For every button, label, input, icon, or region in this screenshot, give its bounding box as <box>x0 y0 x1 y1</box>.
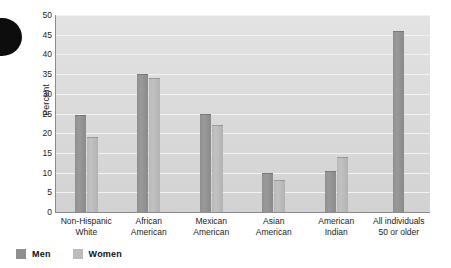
chart-legend: MenWomen <box>16 249 144 259</box>
x-tick-label-line: American <box>243 227 306 238</box>
y-tick-label: 30 <box>32 90 52 99</box>
bar-top-edge <box>262 173 273 174</box>
x-tick-label-4: AmericanIndian <box>305 216 368 238</box>
bar-women-3 <box>274 180 285 212</box>
x-tick-label-line: White <box>55 227 118 238</box>
bar-top-edge <box>87 137 98 138</box>
bar-top-edge <box>137 74 148 75</box>
x-tick-label-line: American <box>118 227 181 238</box>
bar-top-edge <box>212 125 223 126</box>
women-swatch <box>73 249 83 259</box>
x-axis-tick-labels: Non-HispanicWhiteAfricanAmericanMexicanA… <box>55 216 430 250</box>
y-tick-label: 20 <box>32 129 52 138</box>
bar-women-2 <box>212 125 223 212</box>
y-tick-label: 15 <box>32 149 52 158</box>
bar-top-edge <box>75 115 86 116</box>
x-tick-label-0: Non-HispanicWhite <box>55 216 118 238</box>
legend-item-men[interactable]: Men <box>16 249 51 259</box>
y-tick-label: 35 <box>32 70 52 79</box>
bar-women-4 <box>337 157 348 212</box>
bar-top-edge <box>393 31 404 32</box>
bar-men-4 <box>325 171 336 212</box>
x-tick-label-line: American <box>305 216 368 227</box>
x-tick-label-line: Asian <box>243 216 306 227</box>
bar-top-edge <box>325 171 336 172</box>
y-tick-label: 0 <box>32 208 52 217</box>
bar-top-edge <box>274 180 285 181</box>
legend-label: Men <box>32 249 51 259</box>
x-tick-label-line: Mexican <box>180 216 243 227</box>
x-tick-label-line: American <box>180 227 243 238</box>
bar-women-1 <box>149 78 160 212</box>
bar-men-0 <box>75 115 86 212</box>
y-tick-label: 25 <box>32 110 52 119</box>
x-tick-label-line: Non-Hispanic <box>55 216 118 227</box>
bar-women-0 <box>87 137 98 212</box>
bar-men-5 <box>393 31 404 212</box>
y-axis-tick-labels: 50454035302520151050 <box>28 15 52 213</box>
x-tick-label-3: AsianAmerican <box>243 216 306 238</box>
x-tick-label-line: Indian <box>305 227 368 238</box>
x-tick-label-2: MexicanAmerican <box>180 216 243 238</box>
bar-top-edge <box>149 78 160 79</box>
page-corner-dot-decoration <box>0 18 22 56</box>
bar-top-edge <box>200 114 211 115</box>
bar-men-3 <box>262 173 273 212</box>
y-tick-label: 10 <box>32 169 52 178</box>
x-tick-label-line: African <box>118 216 181 227</box>
legend-item-women[interactable]: Women <box>73 249 122 259</box>
x-tick-label-line: All individuals <box>368 216 431 227</box>
x-tick-label-5: All individuals50 or older <box>368 216 431 238</box>
y-tick-label: 40 <box>32 50 52 59</box>
bars-layer <box>55 15 430 213</box>
bar-top-edge <box>337 157 348 158</box>
y-tick-label: 50 <box>32 11 52 20</box>
x-tick-label-1: AfricanAmerican <box>118 216 181 238</box>
bar-chart-figure: Percent 50454035302520151050 Non-Hispani… <box>0 0 451 268</box>
men-swatch <box>16 249 26 259</box>
legend-label: Women <box>89 249 122 259</box>
bar-men-1 <box>137 74 148 212</box>
x-tick-label-line: 50 or older <box>368 227 431 238</box>
y-tick-label: 5 <box>32 188 52 197</box>
y-tick-label: 45 <box>32 31 52 40</box>
bar-men-2 <box>200 114 211 213</box>
